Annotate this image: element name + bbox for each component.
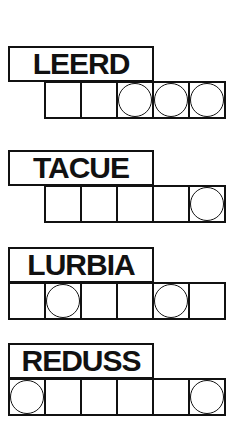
answer-cell-circled[interactable] [188,185,226,223]
circle-icon [190,83,224,117]
answer-cell[interactable] [80,81,118,119]
answer-cell[interactable] [116,282,154,320]
circle-icon [46,284,80,318]
answer-cell[interactable] [188,282,226,320]
answer-cell-circled[interactable] [188,378,226,416]
circle-icon [154,83,188,117]
answer-cell[interactable] [152,185,190,223]
answer-cell-circled[interactable] [116,81,154,119]
answer-cell[interactable] [80,185,118,223]
answer-cell-circled[interactable] [152,81,190,119]
circle-icon [190,187,224,221]
answer-cell-circled[interactable] [8,378,46,416]
answer-cell[interactable] [8,282,46,320]
answer-cell[interactable] [116,185,154,223]
answer-cell[interactable] [152,378,190,416]
answer-cell-circled[interactable] [152,282,190,320]
circle-icon [118,83,152,117]
answer-cell-circled[interactable] [44,282,82,320]
answer-cell[interactable] [80,282,118,320]
scrambled-word: REDUSS [8,343,154,379]
answer-cell-circled[interactable] [188,81,226,119]
answer-cell[interactable] [44,378,82,416]
circle-icon [154,284,188,318]
scrambled-word: LURBIA [8,247,154,283]
scrambled-word: LEERD [8,46,154,82]
answer-cell[interactable] [44,185,82,223]
circle-icon [10,380,44,414]
answer-cells [8,282,228,320]
answer-cells [8,185,228,223]
answer-cell[interactable] [44,81,82,119]
answer-cell[interactable] [80,378,118,416]
answer-cells [8,81,228,119]
scrambled-word: TACUE [8,150,154,186]
answer-cell[interactable] [116,378,154,416]
circle-icon [190,380,224,414]
answer-cells [8,378,228,416]
